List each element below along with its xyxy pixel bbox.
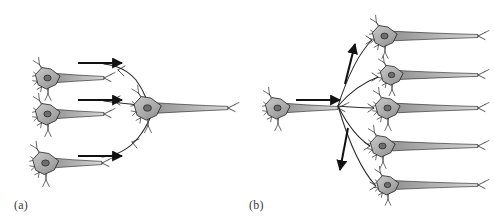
- panel-b-divergence: [262, 15, 489, 205]
- neuron-connectivity-figure: (a) (b): [0, 0, 495, 224]
- output-neuron-converged: [131, 85, 239, 132]
- input-neuron-bottom: [30, 141, 113, 186]
- diverging-branch-3: [338, 106, 374, 108]
- flow-arrow-up: [345, 44, 355, 84]
- source-neuron: [262, 87, 349, 130]
- target-neuron-4: [367, 125, 489, 168]
- synaptic-bouton-bottom: [132, 139, 139, 148]
- converging-collateral-bottom: [102, 118, 150, 157]
- target-neuron-5: [374, 166, 489, 205]
- neuron-diagram-canvas: [0, 0, 495, 224]
- diverging-branch-4: [338, 106, 370, 146]
- diverging-branch-1: [338, 40, 372, 106]
- panel-label-a: (a): [14, 198, 28, 213]
- panel-label-b: (b): [249, 198, 264, 213]
- target-neuron-1: [369, 15, 489, 58]
- panel-a-convergence: [30, 57, 239, 186]
- target-neuron-2: [378, 56, 489, 96]
- flow-arrow-down: [340, 128, 348, 170]
